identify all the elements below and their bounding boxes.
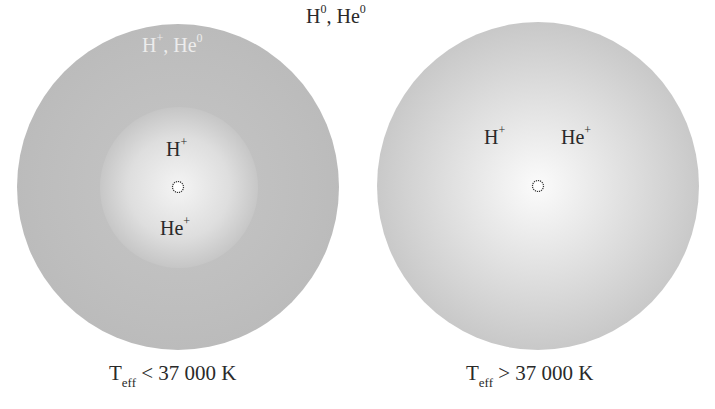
label-sup: + [183,214,190,228]
right-he-label: He+ [561,127,591,147]
label-sup: 0 [197,31,203,45]
neutral-region-label: H0, He0 [306,6,366,26]
star-icon [531,179,545,193]
label-sup: + [584,123,591,137]
label-text: H [306,5,320,27]
label-text: He [336,5,359,27]
left-inner-he-label: He+ [160,218,190,238]
label-text: H [166,138,180,160]
right-caption: Teff > 37 000 K [466,363,594,384]
label-text: He [561,126,584,148]
caption-sub: eff [479,375,493,390]
left-outer-label: H+, He0 [142,35,203,55]
label-text: H [142,34,156,56]
label-sup: 0 [320,2,326,16]
caption-text: > 37 000 K [493,361,594,385]
label-text: H [484,126,498,148]
caption-sub: eff [122,375,136,390]
label-sup: + [156,31,163,45]
label-sup: 0 [360,2,366,16]
left-caption: Teff < 37 000 K [109,363,237,384]
left-inner-h-label: H+ [166,139,187,159]
label-text: He [160,217,183,239]
caption-text: T [466,361,479,385]
right-h-label: H+ [484,127,505,147]
caption-text: T [109,361,122,385]
label-sep: , [163,34,173,56]
label-text: He [173,34,196,56]
star-icon [171,180,185,194]
label-sup: + [498,123,505,137]
caption-text: < 37 000 K [136,361,237,385]
label-sup: + [180,135,187,149]
label-sep: , [326,5,336,27]
